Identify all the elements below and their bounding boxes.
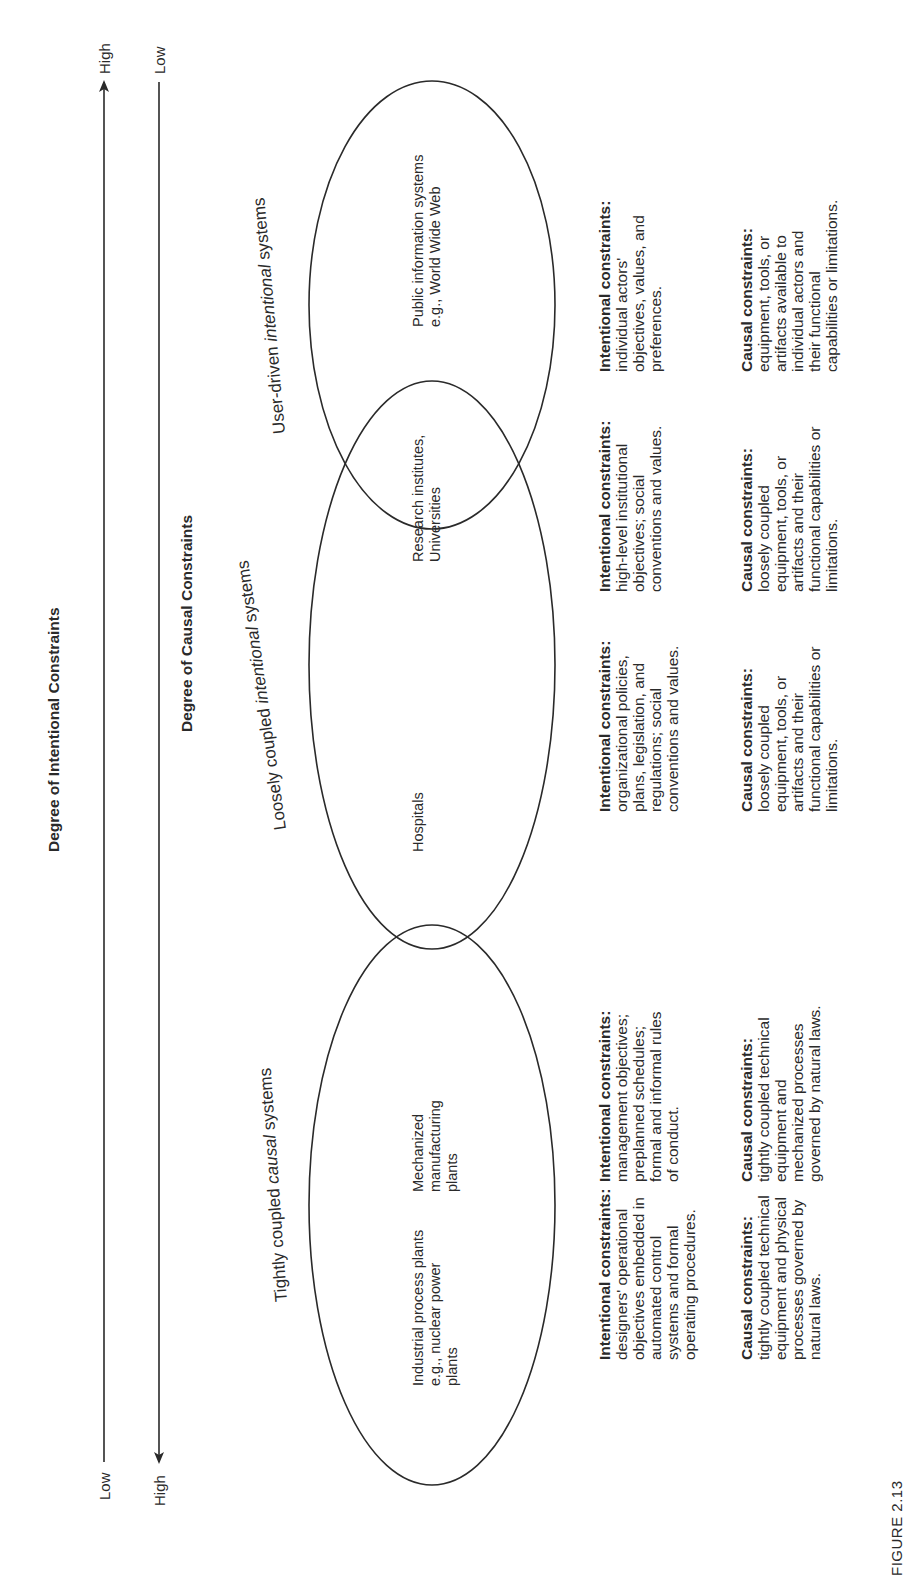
causal-constraints-manufacturing: Causal constraints: tightly coupled tech…	[738, 1005, 823, 1182]
intentional-constraints-public-info: Intentional constraints: individual acto…	[596, 201, 664, 372]
figure-label: FIGURE 2.13	[888, 1480, 905, 1576]
example-industrial-process-plants: Industrial process plants e.g., nuclear …	[410, 1230, 461, 1386]
intentional-constraints-hospitals: Intentional constraints: organizational …	[596, 641, 681, 812]
intentional-constraints-manufacturing: Intentional constraints: management obje…	[596, 1011, 681, 1182]
causal-constraints-public-info: Causal constraints: equipment, tools, or…	[738, 200, 840, 372]
example-research-institutes: Research institutes, Universities	[410, 435, 444, 562]
causal-axis-high-label: High	[151, 1475, 168, 1506]
causal-constraints-industrial: Causal constraints: tightly coupled tech…	[738, 1195, 823, 1360]
ellipse-tightly-coupled-causal	[309, 925, 555, 1485]
example-public-information-systems: Public information systems e.g., World W…	[410, 155, 444, 327]
causal-constraints-research: Causal constraints: loosely coupled equi…	[738, 427, 840, 592]
intentional-axis-title: Degree of Intentional Constraints	[45, 607, 62, 852]
intentional-axis-low-label: Low	[96, 1472, 113, 1500]
intentional-constraints-industrial: Intentional constraints: designers' oper…	[596, 1189, 698, 1360]
figure-stage: Degree of Intentional Constraints Low Hi…	[0, 0, 924, 1592]
example-mechanized-manufacturing: Mechanized manufacturing plants	[410, 1100, 461, 1192]
intentional-constraints-research: Intentional constraints: high-level inst…	[596, 421, 664, 592]
causal-axis-low-label: Low	[151, 46, 168, 74]
causal-constraints-hospitals: Causal constraints: loosely coupled equi…	[738, 647, 840, 812]
example-hospitals: Hospitals	[410, 792, 427, 852]
intentional-axis-high-label: High	[96, 43, 113, 74]
causal-axis-title: Degree of Causal Constraints	[178, 515, 195, 732]
